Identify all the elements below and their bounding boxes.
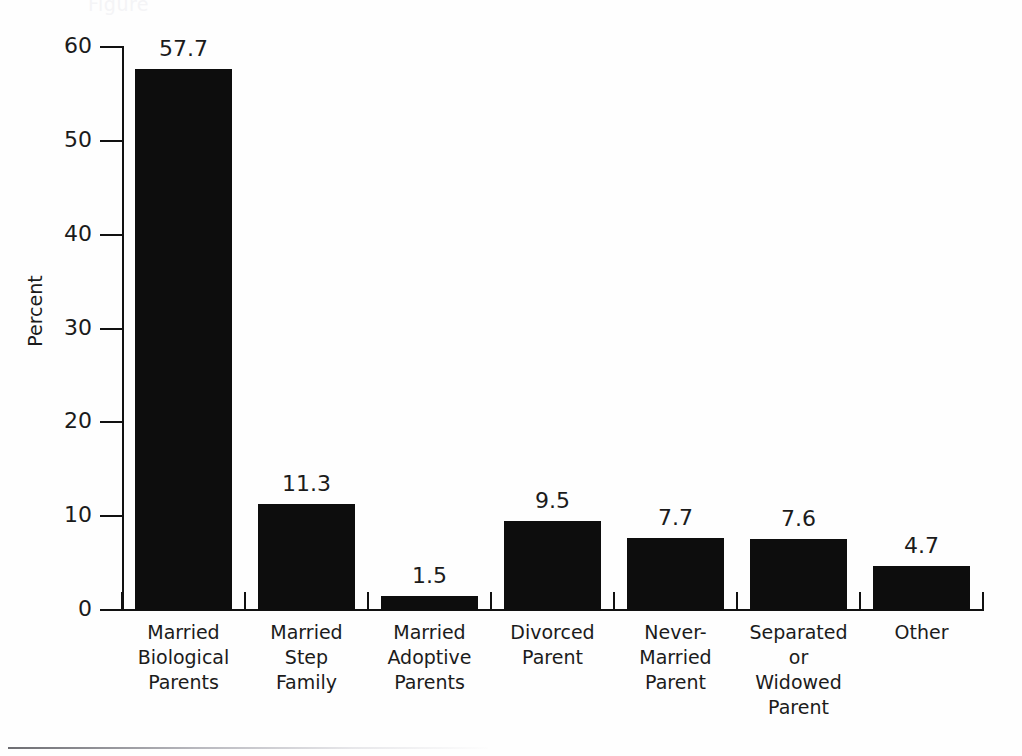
x-axis-category-label-line: Widowed (724, 670, 874, 695)
bar (258, 504, 355, 610)
y-axis-tick-label: 10 (24, 504, 92, 526)
x-axis-tick (244, 592, 246, 611)
y-axis-tick (100, 609, 122, 611)
y-axis-tick-label: 40 (24, 223, 92, 245)
bar (750, 539, 847, 610)
x-axis-tick (613, 592, 615, 611)
y-axis-tick (100, 328, 122, 330)
y-axis-tick-label: 50 (24, 129, 92, 151)
y-axis-tick-label-text: 20 (32, 410, 92, 432)
y-axis-tick-label-text: 10 (32, 504, 92, 526)
chart-page: Figure Percent 0102030405060 57.7Married… (0, 0, 1022, 756)
y-axis-tick (100, 234, 122, 236)
y-axis-tick-label: 20 (24, 410, 92, 432)
x-axis-category-label-line: Parents (355, 670, 505, 695)
x-axis-tick (736, 592, 738, 611)
bar-value-label: 7.6 (739, 507, 859, 531)
y-axis-tick-label: 0 (24, 598, 92, 620)
bar (627, 538, 724, 610)
y-axis-tick-label-text: 30 (32, 317, 92, 339)
y-axis-tick (100, 140, 122, 142)
bar (873, 566, 970, 610)
bottom-divider-rule (8, 747, 488, 749)
y-axis-tick (100, 515, 122, 517)
bar-value-label: 11.3 (247, 472, 367, 496)
bar-value-label: 7.7 (616, 506, 736, 530)
y-axis-tick-label: 60 (24, 35, 92, 57)
bar-value-label: 57.7 (124, 37, 244, 61)
x-axis-tick (367, 592, 369, 611)
bar-value-label: 9.5 (493, 489, 613, 513)
y-axis-tick (100, 421, 122, 423)
x-axis-tick (859, 592, 861, 611)
x-axis-tick (121, 592, 123, 611)
x-axis-category-label-line: Other (847, 620, 997, 645)
ghost-title-text: Figure (88, 0, 149, 15)
x-axis-category-label-line: Parent (724, 695, 874, 720)
y-axis-tick-label: 30 (24, 317, 92, 339)
x-axis-category-label: Other (847, 620, 997, 645)
y-axis-tick-label-text: 60 (32, 35, 92, 57)
bar (504, 521, 601, 610)
x-axis-tick (982, 592, 984, 611)
y-axis-title: Percent (24, 256, 46, 366)
bar-value-label: 1.5 (370, 564, 490, 588)
y-axis-tick-label-text: 50 (32, 129, 92, 151)
x-axis-category-label-line: or (724, 645, 874, 670)
x-axis-tick (490, 592, 492, 611)
bar (381, 596, 478, 610)
y-axis-tick-label-text: 40 (32, 223, 92, 245)
y-axis-tick (100, 46, 122, 48)
y-axis-line (122, 46, 124, 611)
y-axis-tick-label-text: 0 (32, 598, 92, 620)
bar (135, 69, 232, 610)
bar-value-label: 4.7 (862, 534, 982, 558)
